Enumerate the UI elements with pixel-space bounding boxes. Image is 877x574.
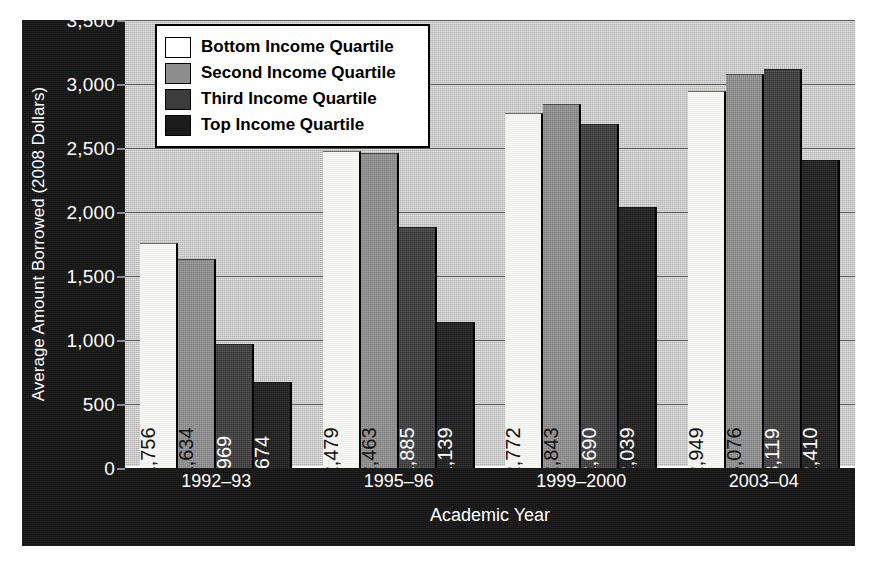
bar-value-label: $2,843 <box>541 427 561 468</box>
y-axis-tick-label: 2,500 <box>22 139 125 158</box>
legend-item: Second Income Quartile <box>165 60 418 86</box>
bar: $1,634 <box>178 259 216 468</box>
bar-value-label: $969 <box>214 436 234 468</box>
y-axis-tick-label: 1,500 <box>22 267 125 286</box>
y-axis-tick-label: 1,000 <box>22 331 125 350</box>
bar: $1,885 <box>399 227 437 468</box>
y-axis-tick-label: 2,000 <box>22 203 125 222</box>
bar-value-label: $2,039 <box>617 427 637 468</box>
legend-item: Bottom Income Quartile <box>165 34 418 60</box>
bar: $2,039 <box>619 207 657 468</box>
legend-item-label: Third Income Quartile <box>201 89 377 109</box>
bar-value-label: $1,885 <box>397 427 417 468</box>
bar: $2,772 <box>505 113 543 468</box>
legend-swatch-icon <box>165 37 191 58</box>
y-axis-tick-label: 3,500 <box>22 11 125 30</box>
legend-swatch-icon <box>165 63 191 84</box>
bar: $969 <box>216 344 254 468</box>
bar-value-label: $674 <box>252 436 272 468</box>
x-axis-tick-label: 1995–96 <box>308 472 491 490</box>
bar: $2,463 <box>361 153 399 468</box>
bar-value-label: $2,772 <box>503 427 523 468</box>
bar: $2,410 <box>802 160 840 468</box>
bar-value-label: $2,410 <box>800 427 820 468</box>
bar: $3,119 <box>764 69 802 468</box>
y-axis-tick-label: 3,000 <box>22 75 125 94</box>
legend-swatch-icon <box>165 115 191 136</box>
legend-item-label: Second Income Quartile <box>201 63 396 83</box>
x-axis-tick-label: 1992–93 <box>125 472 308 490</box>
bar: $2,949 <box>688 91 726 468</box>
bar-chart: Average Amount Borrowed (2008 Dollars) 0… <box>0 0 877 574</box>
legend-item: Top Income Quartile <box>165 112 418 138</box>
legend: Bottom Income QuartileSecond Income Quar… <box>155 24 430 148</box>
bar: $2,479 <box>323 151 361 468</box>
gridline <box>125 20 855 21</box>
bar-value-label: $1,756 <box>138 427 158 468</box>
bar-value-label: $3,119 <box>762 428 782 468</box>
x-axis-title: Academic Year <box>125 506 855 524</box>
legend-item-label: Bottom Income Quartile <box>201 37 394 57</box>
bar-value-label: $1,139 <box>435 427 455 468</box>
legend-swatch-icon <box>165 89 191 110</box>
bar-value-label: $2,690 <box>579 427 599 468</box>
bar-value-label: $1,634 <box>176 427 196 468</box>
bar: $2,843 <box>543 104 581 468</box>
bar-value-label: $2,479 <box>321 427 341 468</box>
x-axis-tick-label: 2003–04 <box>673 472 856 490</box>
legend-item: Third Income Quartile <box>165 86 418 112</box>
bar: $2,690 <box>581 124 619 468</box>
bar: $674 <box>254 382 292 468</box>
bar: $1,756 <box>140 243 178 468</box>
bar: $1,139 <box>437 322 475 468</box>
y-axis-tick-label: 500 <box>22 395 125 414</box>
bar-value-label: $2,463 <box>359 427 379 468</box>
legend-item-label: Top Income Quartile <box>201 115 364 135</box>
x-axis-tick-label: 1999–2000 <box>490 472 673 490</box>
y-axis-tick-label: 0 <box>22 459 125 478</box>
bar-value-label: $2,949 <box>686 427 706 468</box>
bar: $3,076 <box>726 74 764 468</box>
bar-value-label: $3,076 <box>724 427 744 468</box>
